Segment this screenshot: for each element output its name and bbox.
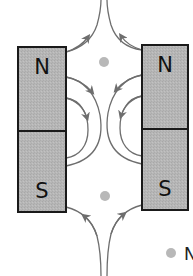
field-lines	[66, 0, 142, 276]
top-neutral-point	[99, 57, 109, 67]
field-line-left-inner-1	[66, 77, 101, 166]
bottom-neutral-point	[100, 191, 110, 201]
right-south-label: S	[158, 177, 171, 201]
field-line-top-left	[66, 0, 101, 52]
left-magnet: N S	[18, 47, 66, 212]
field-line-left-inner-3	[66, 100, 82, 163]
right-north-label: N	[157, 53, 173, 77]
legend-label: N	[184, 244, 193, 264]
field-line-right-inner-2	[120, 96, 142, 156]
field-line-bottom-right	[107, 205, 142, 276]
legend-dot-icon	[166, 248, 176, 258]
field-line-left-inner-2	[66, 98, 88, 158]
right-magnet: N S	[142, 45, 188, 210]
field-line-right-inner-1	[107, 75, 142, 164]
field-line-bottom-left	[66, 207, 101, 276]
left-north-label: N	[34, 55, 50, 79]
magnet-field-diagram: N S N S	[0, 0, 193, 276]
left-south-label: S	[35, 179, 48, 203]
field-line-top-right	[107, 0, 142, 50]
